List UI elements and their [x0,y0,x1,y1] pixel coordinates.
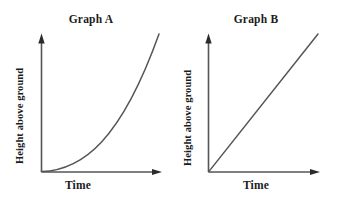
figure-canvas: Graph A Height above ground Time Graph B… [0,0,339,200]
graph-a-exponential-curve [42,34,160,172]
graph-a-plot [0,0,170,200]
graph-panel-a: Graph A Height above ground Time [0,0,170,200]
graph-a-y-axis-arrowhead [38,34,44,44]
graph-a-x-axis-arrowhead [152,169,162,175]
graph-b-linear-line [209,34,318,172]
graph-b-y-axis-arrowhead [205,34,211,44]
graph-b-plot [169,0,339,200]
graph-b-x-axis-arrowhead [310,169,320,175]
graph-panel-b: Graph B Height above ground Time [169,0,339,200]
